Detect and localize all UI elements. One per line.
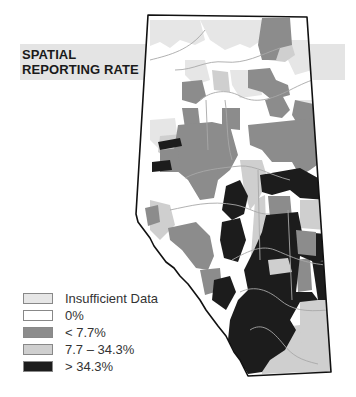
legend-label: < 7.7%	[65, 325, 106, 340]
legend-label: > 34.3%	[65, 359, 113, 374]
legend-label: 7.7 – 34.3%	[65, 342, 134, 357]
legend-swatch-zero	[23, 310, 53, 321]
legend-swatch-low	[23, 327, 53, 338]
legend: Insufficient Data 0% < 7.7% 7.7 – 34.3% …	[23, 290, 158, 375]
legend-item-mid: 7.7 – 34.3%	[23, 341, 158, 358]
legend-label: Insufficient Data	[65, 291, 158, 306]
legend-swatch-insufficient	[23, 293, 53, 304]
legend-item-insufficient: Insufficient Data	[23, 290, 158, 307]
title-line-1: SPATIAL	[22, 47, 139, 62]
legend-swatch-mid	[23, 344, 53, 355]
legend-item-zero: 0%	[23, 307, 158, 324]
map-title: SPATIAL REPORTING RATE	[22, 47, 139, 77]
legend-label: 0%	[65, 308, 84, 323]
legend-item-high: > 34.3%	[23, 358, 158, 375]
legend-item-low: < 7.7%	[23, 324, 158, 341]
legend-swatch-high	[23, 361, 53, 372]
title-line-2: REPORTING RATE	[22, 62, 139, 77]
